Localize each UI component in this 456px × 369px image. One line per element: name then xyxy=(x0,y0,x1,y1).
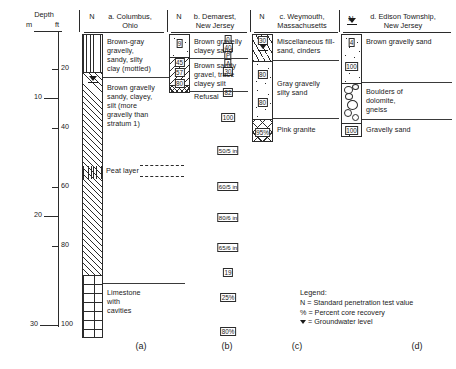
panel-a-n-value-14: 80% xyxy=(220,327,236,336)
panel-c-n-value-2: 80 xyxy=(257,70,267,79)
panel-d-stratum-3-desc-1: Gravelly sand xyxy=(366,126,411,135)
panel-b-title-line2: New Jersey xyxy=(183,21,247,30)
m-tick-20 xyxy=(44,216,58,217)
legend-item-groundwater-text: = Groundwater level xyxy=(306,317,373,326)
panel-a-peat-pattern xyxy=(83,166,102,179)
panel-c-stratum-2-desc-2: silty sand xyxy=(277,89,307,98)
ft-tick-label-100: 100 xyxy=(61,320,73,329)
panel-d-divider-2 xyxy=(342,123,361,124)
panel-separator-d xyxy=(339,10,340,32)
m-tick-10 xyxy=(44,98,58,99)
panel-b-n-value-1: 9 xyxy=(176,39,183,48)
panel-c-n-value-3: 80 xyxy=(257,98,267,107)
ft-tick-40 xyxy=(52,128,59,129)
panel-b-stratum-1-desc-2: clayey sand xyxy=(194,47,233,56)
depth-unit-m: m xyxy=(18,20,40,29)
panel-a-desc-rule-2 xyxy=(103,283,185,284)
panel-a-n-value-7: 100 xyxy=(221,113,235,122)
panel-a-n-value-9: 60/5 in xyxy=(217,182,238,191)
panel-a-n-value-8: 50/5 in xyxy=(217,146,238,155)
ft-tick-80 xyxy=(52,246,59,247)
panel-d-desc-rule-1 xyxy=(362,82,452,83)
panel-d-desc-rule-2 xyxy=(362,119,452,120)
panel-b-n-value-4: 80 xyxy=(174,79,184,88)
panel-c-stratum-3-desc-1: Pink granite xyxy=(277,126,316,135)
panel-label-a: (a) xyxy=(126,341,156,351)
panel-b-n-value-2: 45 xyxy=(174,58,184,67)
legend: Legend: N = Standard penetration test va… xyxy=(300,288,454,327)
boulder-6 xyxy=(352,114,359,121)
panel-a-peat-leader-top xyxy=(140,165,184,166)
panel-b-refusal-label: Refusal xyxy=(194,93,219,102)
m-tick-label-20: 20 xyxy=(26,211,42,220)
panel-c-n-value-4: 95% xyxy=(255,128,271,137)
panel-d-title-line1: d. Edison Township, xyxy=(355,12,451,21)
m-tick-label-10: 10 xyxy=(26,93,42,102)
panel-c-stratum-1-desc-2: sand, cinders xyxy=(277,47,320,56)
panel-a-title-line1: a. Columbus, xyxy=(96,12,164,21)
panel-a-n-value-6: 82 xyxy=(223,88,233,97)
panel-d-groundwater-bar xyxy=(347,24,357,25)
panel-d-groundwater-icon xyxy=(348,18,356,23)
panel-c-groundwater-bar xyxy=(258,50,268,51)
panel-a-peat-annotation: Peat layer xyxy=(106,167,139,176)
panel-a-divider-1 xyxy=(83,72,102,73)
panel-d-stratum-1-desc-1: Brown gravelly sand xyxy=(366,38,432,47)
legend-item-n: N = Standard penetration test value xyxy=(300,298,454,308)
panel-d-stratum-2-desc-3: gneiss xyxy=(366,106,387,115)
panel-c-divider-1 xyxy=(253,61,272,62)
ft-tick-label-80: 80 xyxy=(61,241,69,250)
legend-title: Legend: xyxy=(300,288,454,297)
panel-a-n-value-10: 80/6 in xyxy=(217,213,238,222)
panel-label-b: (b) xyxy=(212,341,242,351)
ft-tick-label-60: 60 xyxy=(61,182,69,191)
panel-a-title-line2: Ohio xyxy=(96,21,164,30)
panel-d-stratum-2-pattern xyxy=(342,83,361,123)
panel-d-n-value-1: 4 xyxy=(348,38,355,47)
panel-c-groundwater-icon xyxy=(259,44,267,49)
panel-b-n-value-3: 57 xyxy=(174,68,184,77)
boulder-5 xyxy=(344,109,352,117)
legend-item-groundwater-row: = Groundwater level xyxy=(300,317,454,327)
panel-label-d: (d) xyxy=(402,341,432,351)
m-tick-30 xyxy=(40,325,58,326)
panel-c-desc-rule-2 xyxy=(273,118,339,119)
ft-tick-label-40: 40 xyxy=(61,123,69,132)
panel-a-divider-2 xyxy=(83,275,102,276)
boring-log-figure: Depth m ft 20 40 60 80 100 10 20 30 N a.… xyxy=(0,0,456,369)
panel-b-desc-rule-1 xyxy=(190,58,248,59)
panel-separator-c xyxy=(250,10,251,32)
depth-unit-ft: ft xyxy=(46,20,68,29)
panel-a-stratum-1-pattern xyxy=(83,35,102,72)
panel-d-n-value-2: 100 xyxy=(345,62,359,71)
depth-axis xyxy=(58,31,59,327)
panel-c-title-line2: Massachusetts xyxy=(266,21,338,30)
boulder-3 xyxy=(345,93,353,100)
panel-c-title-line1: c. Weymouth, xyxy=(266,12,338,21)
panel-separator-b xyxy=(167,10,168,32)
panel-d-n-value-3: 100 xyxy=(345,126,359,135)
panel-a-stratum-3-desc-3: cavities xyxy=(107,307,131,316)
legend-item-percent: % = Percent core recovery xyxy=(300,308,454,318)
panel-a-n-value-13: 25% xyxy=(220,293,236,302)
panel-d-boring-column xyxy=(341,34,362,137)
panel-d-header-rule xyxy=(343,32,451,33)
panel-c-desc-rule-1 xyxy=(273,60,339,61)
panel-c-header-rule xyxy=(254,32,338,33)
panel-separator-a xyxy=(79,10,80,32)
panel-a-groundwater-icon xyxy=(89,76,97,81)
panel-b-header-rule xyxy=(171,32,247,33)
panel-a-groundwater-bar xyxy=(88,82,98,83)
panel-d-title-line2: New Jersey xyxy=(355,21,451,30)
panel-a-header-rule xyxy=(84,32,164,33)
ft-tick-20 xyxy=(52,69,59,70)
panel-a-n-value-11: 65/6 in xyxy=(217,243,238,252)
panel-b-stratum-2-desc-3: clayey silt xyxy=(194,80,226,89)
panel-a-stratum-1-desc-4: clay (mottled) xyxy=(107,65,151,74)
depth-scale-header: Depth m ft xyxy=(18,10,70,30)
panel-a-peat-leader-bottom xyxy=(140,176,184,177)
panel-b-title-line1: b. Demarest, xyxy=(183,12,247,21)
boulder-2 xyxy=(352,84,359,90)
panel-c-divider-2 xyxy=(253,119,272,120)
ft-tick-60 xyxy=(52,187,59,188)
